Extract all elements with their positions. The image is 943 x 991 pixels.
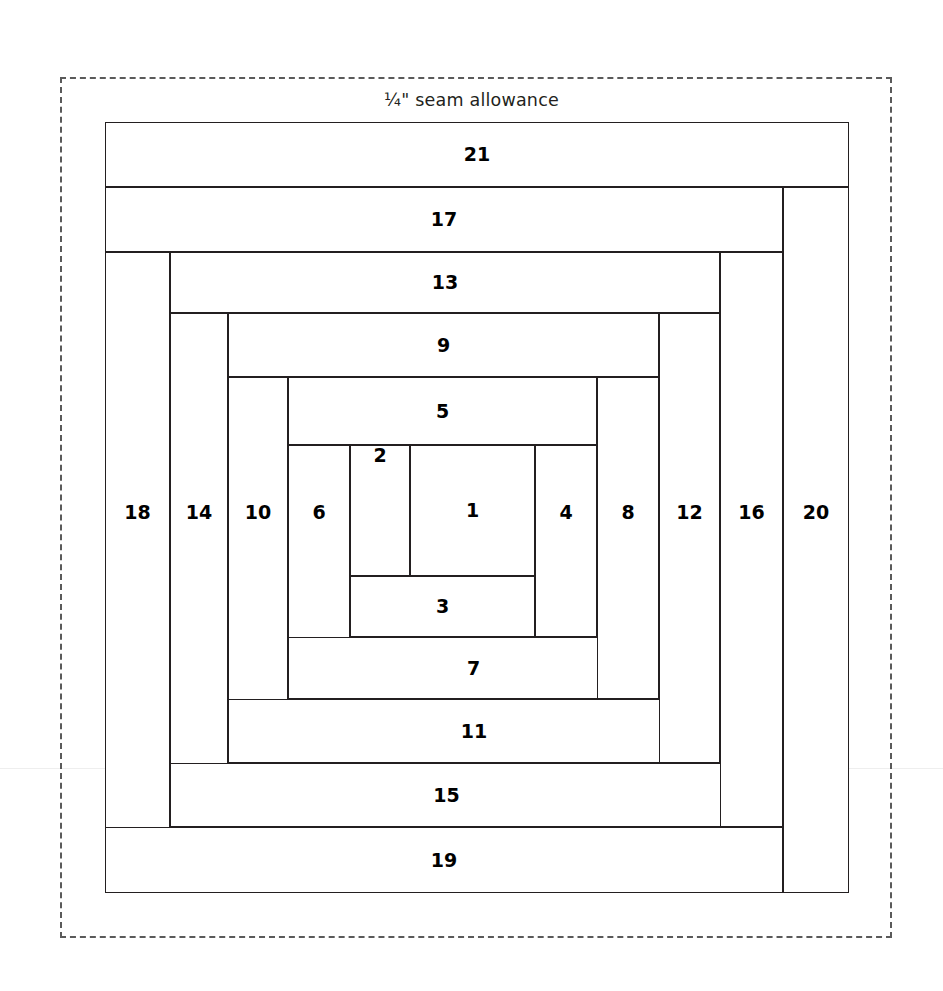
quilt-piece-5: 5: [288, 377, 597, 445]
quilt-piece-8: 8: [597, 377, 659, 699]
quilt-piece-15: 15: [170, 763, 723, 827]
quilt-piece-label: 3: [436, 597, 449, 616]
quilt-piece-label: 2: [373, 446, 386, 465]
quilt-piece-label: 13: [432, 273, 458, 292]
quilt-piece-21: 21: [105, 122, 849, 187]
quilt-piece-label: 8: [621, 503, 634, 522]
quilt-piece-label: 20: [803, 503, 829, 522]
quilt-piece-12: 12: [659, 313, 720, 763]
quilt-piece-16: 16: [720, 252, 783, 827]
quilt-piece-19: 19: [105, 827, 783, 893]
quilt-piece-label: 18: [124, 503, 150, 522]
quilt-block-diagram-page: ¼" seam allowance 1234567891011121314151…: [0, 0, 943, 991]
quilt-piece-11: 11: [228, 699, 720, 763]
quilt-piece-4: 4: [535, 445, 597, 637]
quilt-piece-label: 17: [431, 210, 457, 229]
quilt-piece-17: 17: [105, 187, 783, 252]
quilt-piece-18: 18: [105, 252, 170, 893]
quilt-piece-label: 4: [559, 503, 572, 522]
seam-allowance-label: ¼" seam allowance: [0, 90, 943, 110]
log-cabin-block: 123456789101112131415161718192021: [105, 122, 849, 893]
quilt-piece-label: 7: [467, 659, 480, 678]
quilt-piece-20: 20: [783, 187, 849, 893]
quilt-piece-label: 11: [461, 722, 487, 741]
quilt-piece-14: 14: [170, 313, 228, 827]
quilt-piece-label: 15: [433, 786, 459, 805]
quilt-piece-label: 6: [312, 503, 325, 522]
quilt-piece-1: 1: [410, 445, 535, 576]
quilt-piece-label: 19: [431, 851, 457, 870]
quilt-piece-3: 3: [350, 576, 535, 637]
quilt-piece-9: 9: [228, 313, 659, 377]
quilt-piece-label: 16: [738, 503, 764, 522]
quilt-piece-label: 10: [245, 503, 271, 522]
quilt-piece-label: 21: [464, 145, 490, 164]
quilt-piece-label: 14: [186, 503, 212, 522]
quilt-piece-label: 5: [436, 402, 449, 421]
quilt-piece-label: 1: [466, 501, 479, 520]
quilt-piece-13: 13: [170, 252, 720, 313]
quilt-piece-label: 9: [437, 336, 450, 355]
quilt-piece-label: 12: [676, 503, 702, 522]
quilt-piece-2: 2: [350, 445, 410, 576]
